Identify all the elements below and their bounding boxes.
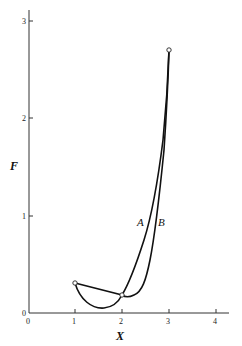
y-tick-label-3: 3 (22, 17, 26, 26)
curve-a (75, 50, 169, 308)
curve-b (75, 50, 169, 297)
marker-end (167, 48, 171, 52)
curve-b-label: B (158, 216, 165, 228)
x-tick-label-1: 1 (72, 317, 76, 326)
y-ticks (29, 21, 33, 216)
x-tick-label-0: 0 (26, 317, 30, 326)
x-tick-label-3: 3 (166, 317, 170, 326)
x-tick-label-2: 2 (119, 317, 123, 326)
x-ticks (75, 309, 216, 313)
y-tick-label-1: 1 (22, 212, 26, 221)
marker-intersection (120, 293, 124, 297)
marker-start (73, 281, 77, 285)
x-tick-label-4: 4 (213, 317, 217, 326)
x-axis-title: X (115, 329, 125, 343)
curve-a-label: A (136, 216, 144, 228)
y-tick-label-2: 2 (22, 114, 26, 123)
y-axis-title: F (9, 159, 18, 173)
chart: 3 2 1 0 0 1 2 3 4 F X A B (0, 0, 242, 346)
